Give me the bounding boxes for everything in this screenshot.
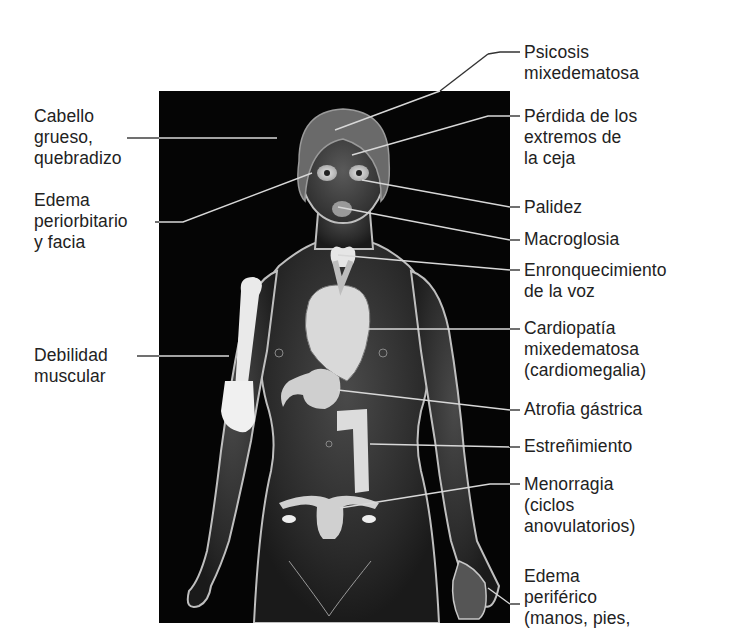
label-estrenimiento: Estreñimiento [524, 436, 632, 457]
label-debilidad-muscular: Debilidad muscular [34, 345, 108, 387]
label-palidez: Palidez [524, 197, 582, 218]
label-atrofia-gastrica: Atrofia gástrica [524, 399, 642, 420]
label-cardiopatia: Cardiopatía mixedematosa (cardiomegalia) [524, 318, 646, 381]
label-perdida-ceja: Pérdida de los extremos de la ceja [524, 106, 637, 169]
label-macroglosia: Macroglosia [524, 229, 619, 250]
illustration-panel [159, 91, 510, 623]
label-cabello: Cabello grueso, quebradizo [34, 106, 122, 169]
human-figure-illustration [159, 91, 510, 623]
label-edema-periorbitario: Edema periorbitario y facia [34, 190, 128, 253]
label-edema-periferico: Edema periférico (manos, pies, [524, 566, 630, 629]
label-enronquecimiento: Enronquecimiento de la voz [524, 260, 667, 302]
label-menorragia: Menorragia (ciclos anovulatorios) [524, 474, 635, 537]
label-psicosis: Psicosis mixedematosa [524, 42, 639, 84]
